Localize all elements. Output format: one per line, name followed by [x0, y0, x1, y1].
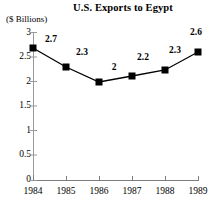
data-point-marker-1986: [96, 79, 103, 86]
data-point-marker-1985: [63, 64, 70, 71]
data-point-marker-1987: [129, 73, 136, 80]
plot-area: [0, 0, 216, 213]
chart-container: U.S. Exports to Egypt ($ Billions) 3 2.5…: [0, 0, 216, 213]
data-point-marker-1984: [30, 45, 37, 52]
data-point-marker-1989: [195, 49, 202, 56]
data-point-marker-1988: [162, 67, 169, 74]
data-series-line: [33, 48, 198, 82]
